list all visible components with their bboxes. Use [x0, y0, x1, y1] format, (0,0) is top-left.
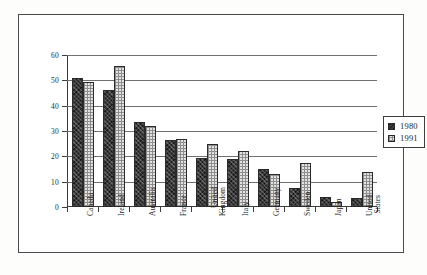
bar-group [284, 55, 315, 207]
x-axis-category-label: Sweden [304, 192, 312, 216]
x-axis-category-label: France [180, 195, 188, 216]
bar [196, 158, 207, 207]
x-axis-tick [315, 207, 316, 212]
chart-legend: 1980 1991 [383, 116, 425, 148]
x-axis-tick [160, 207, 161, 212]
y-axis-tick-label: 60 [51, 51, 59, 60]
legend-label-1980: 1980 [400, 121, 418, 131]
bar-group [129, 55, 160, 207]
x-axis-category-label: Germany [273, 187, 281, 216]
x-axis-tick [67, 207, 68, 212]
bar [83, 82, 94, 207]
bar-group [346, 55, 377, 207]
x-axis-tick [284, 207, 285, 212]
bar-group [253, 55, 284, 207]
legend-swatch-1991-icon [388, 135, 395, 142]
figure-frame: 0102030405060 CanadaIrelandAustraliaFran… [18, 14, 404, 253]
x-axis-category-label: Japan [335, 198, 343, 216]
legend-swatch-1980-icon [388, 123, 395, 130]
bar [114, 66, 125, 207]
bar [227, 159, 238, 207]
x-axis-tick [98, 207, 99, 212]
legend-item: 1980 [388, 120, 418, 132]
bar [258, 169, 269, 207]
x-axis-tick [129, 207, 130, 212]
x-axis-category-label: UnitedStates [366, 195, 383, 216]
y-axis-tick-label: 20 [51, 152, 59, 161]
y-axis-tick-label: 50 [51, 76, 59, 85]
x-axis-tick [191, 207, 192, 212]
bar-group [160, 55, 191, 207]
legend-label-1991: 1991 [400, 133, 418, 143]
x-axis-tick [253, 207, 254, 212]
y-axis-tick-label: 30 [51, 127, 59, 136]
bar [289, 188, 300, 207]
bar-group [222, 55, 253, 207]
x-axis-category-label: UnitedKingdom [211, 187, 228, 216]
bar [320, 197, 331, 207]
y-axis-tick-label: 0 [55, 203, 59, 212]
x-axis-tick [346, 207, 347, 212]
bar-group [315, 55, 346, 207]
legend-item: 1991 [388, 132, 418, 144]
bar-group [191, 55, 222, 207]
y-axis-tick-label: 40 [51, 101, 59, 110]
bar [238, 151, 249, 207]
x-axis-category-label: Italy [242, 202, 250, 216]
x-axis-category-label: Ireland [118, 194, 126, 216]
y-axis-tick-label: 10 [51, 177, 59, 186]
page-background: 0102030405060 CanadaIrelandAustraliaFran… [0, 0, 427, 275]
bar [165, 140, 176, 207]
bar [134, 122, 145, 207]
bar [72, 78, 83, 207]
bar [103, 90, 114, 207]
plot-area: 0102030405060 CanadaIrelandAustraliaFran… [67, 55, 377, 207]
x-axis-category-label: Canada [87, 193, 95, 216]
x-axis-category-label: Australia [149, 188, 157, 216]
bar [351, 198, 362, 207]
bar-group [98, 55, 129, 207]
bar-group [67, 55, 98, 207]
